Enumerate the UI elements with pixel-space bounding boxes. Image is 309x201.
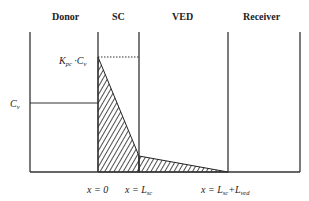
sc-concentration-profile xyxy=(98,57,139,172)
region-label-sc: SC xyxy=(112,11,125,22)
cv-label: Cv xyxy=(10,98,20,110)
kpc-cv-label: Kpc ·Cv xyxy=(58,55,86,67)
ved-concentration-profile xyxy=(139,156,228,172)
position-label-x-total: x = Lsc+Lved xyxy=(200,184,250,196)
diffusion-diagram: Donor SC VED Receiver Kpc ·Cv Cv x = 0 x… xyxy=(0,0,309,201)
region-label-receiver: Receiver xyxy=(243,11,281,22)
region-label-donor: Donor xyxy=(52,11,80,22)
region-label-ved: VED xyxy=(172,11,193,22)
position-label-x-lsc: x = Lsc xyxy=(124,184,152,196)
position-label-x0: x = 0 xyxy=(86,184,108,195)
